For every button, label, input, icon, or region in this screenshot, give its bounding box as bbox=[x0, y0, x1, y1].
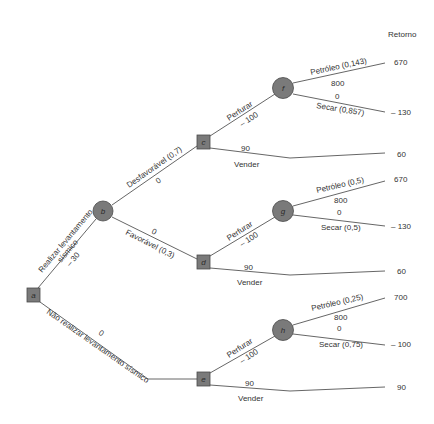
return-value: 700 bbox=[394, 293, 408, 302]
value-h-dry: 0 bbox=[337, 324, 342, 333]
node-e: e bbox=[197, 372, 210, 386]
decision-tree: a b c d e f g h Realizar levantamento sí… bbox=[0, 0, 434, 424]
return-value: 90 bbox=[397, 383, 406, 392]
value-c-sell: 90 bbox=[241, 144, 250, 153]
label-f-oil: Petróleo (0,143) bbox=[310, 56, 368, 77]
return-value: 670 bbox=[394, 175, 408, 184]
label-c-sell: Vender bbox=[234, 160, 260, 169]
edge-b-c bbox=[112, 146, 197, 205]
return-value: – 100 bbox=[391, 340, 412, 349]
return-value: 60 bbox=[397, 150, 406, 159]
label-g-oil: Petróleo (0,5) bbox=[315, 175, 365, 195]
node-h: h bbox=[273, 320, 294, 341]
value-g-dry: 0 bbox=[337, 208, 342, 217]
return-value: – 130 bbox=[391, 222, 412, 231]
svg-text:g: g bbox=[281, 207, 286, 216]
node-g: g bbox=[273, 201, 294, 222]
label-a-e: Não realizar levantamento sísmico bbox=[45, 307, 151, 385]
label-e-sell: Vender bbox=[238, 394, 264, 403]
value-b-c: 0 bbox=[154, 175, 163, 185]
label-h-dry: Secar (0,75) bbox=[319, 340, 363, 349]
label-g-dry: Secar (0,5) bbox=[321, 223, 361, 232]
label-h-oil: Petróleo (0,25) bbox=[310, 292, 364, 313]
return-value: 60 bbox=[397, 267, 406, 276]
svg-text:e: e bbox=[201, 375, 206, 384]
value-d-sell: 90 bbox=[244, 263, 253, 272]
edge-c-f bbox=[210, 94, 275, 136]
return-value: 670 bbox=[394, 58, 408, 67]
svg-text:h: h bbox=[281, 326, 286, 335]
svg-text:b: b bbox=[101, 207, 106, 216]
return-header: Retorno bbox=[388, 30, 417, 39]
edge-e-sell bbox=[210, 385, 385, 391]
svg-text:c: c bbox=[202, 138, 206, 147]
value-g-oil: 800 bbox=[334, 196, 348, 205]
node-f: f bbox=[273, 78, 294, 99]
label-b-c: Desfavorável (0,7) bbox=[125, 145, 184, 190]
value-h-oil: 800 bbox=[334, 313, 348, 322]
svg-text:d: d bbox=[201, 258, 206, 267]
edge-a-e bbox=[40, 302, 197, 379]
node-a: a bbox=[27, 288, 40, 302]
node-c: c bbox=[197, 135, 210, 149]
value-f-oil: 800 bbox=[331, 79, 345, 88]
value-a-e: 0 bbox=[97, 328, 106, 338]
value-f-dry: 0 bbox=[335, 92, 340, 101]
node-d: d bbox=[197, 255, 210, 269]
edge-b-d bbox=[112, 217, 197, 259]
edge-d-sell bbox=[210, 268, 385, 275]
edge-c-sell bbox=[210, 148, 385, 158]
label-d-sell: Vender bbox=[237, 278, 263, 287]
return-value: – 130 bbox=[391, 108, 412, 117]
value-b-d: 0 bbox=[150, 227, 159, 237]
value-e-sell: 90 bbox=[245, 379, 254, 388]
node-b: b bbox=[93, 201, 113, 221]
svg-text:a: a bbox=[31, 291, 36, 300]
